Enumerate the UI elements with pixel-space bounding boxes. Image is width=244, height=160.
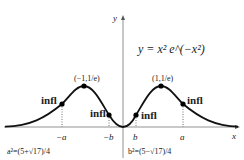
max-point-right bbox=[158, 83, 163, 88]
inflection-point-b bbox=[133, 112, 138, 117]
infl-label-b: infl bbox=[141, 110, 157, 121]
infl-label-neg-a: infl bbox=[41, 95, 57, 106]
tick-b: b bbox=[133, 133, 138, 142]
y-axis-label: y bbox=[113, 14, 117, 23]
function-graph bbox=[0, 0, 244, 160]
a-definition: a²=(5+√17)/4 bbox=[7, 148, 50, 156]
equation: y = x² e^(−x²) bbox=[138, 43, 205, 55]
infl-label-neg-b: infl bbox=[90, 108, 106, 119]
tick-neg-a: −a bbox=[56, 133, 67, 142]
infl-label-a: infl bbox=[187, 95, 203, 106]
y-axis-arrow-icon bbox=[121, 15, 125, 20]
curve bbox=[5, 86, 238, 127]
max-label-right: (1,1/e) bbox=[152, 75, 173, 83]
b-definition: b²=(5−√17)/4 bbox=[128, 148, 171, 156]
inflection-point-neg-b bbox=[106, 112, 111, 117]
inflection-point-neg-a bbox=[59, 101, 64, 106]
tick-a: a bbox=[180, 133, 185, 142]
inflection-point-a bbox=[180, 101, 185, 106]
max-point-left bbox=[81, 83, 86, 88]
tick-neg-b: −b bbox=[103, 133, 114, 142]
x-axis-label: x bbox=[232, 132, 236, 141]
max-label-left: (−1,1/e) bbox=[74, 75, 100, 83]
